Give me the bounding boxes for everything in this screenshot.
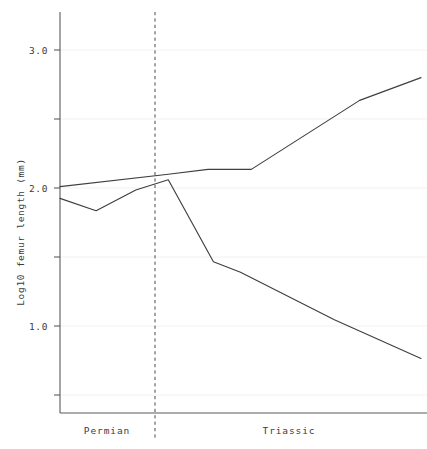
line-chart-canvas: 3.0 2.0 1.0 Log10 femur length (mm) Perm… [0,0,427,449]
ytick-label-3-0: 3.0 [29,45,48,56]
axis-spines [60,12,427,413]
series-lower-trend-line [60,180,421,359]
ytick-label-1-0: 1.0 [29,321,48,332]
y-tickmarks [54,50,60,395]
y-axis-title: Log10 femur length (mm) [15,158,26,306]
chart-figure: 3.0 2.0 1.0 Log10 femur length (mm) Perm… [0,0,427,449]
data-series-group [60,78,421,359]
y-tick-labels: 3.0 2.0 1.0 [29,45,48,332]
x-label-permian: Permian [84,425,130,436]
series-upper-trend-line [60,78,421,187]
gridlines [60,50,427,395]
x-label-triassic: Triassic [263,425,316,436]
ytick-label-2-0: 2.0 [29,183,48,194]
x-period-labels: Permian Triassic [84,425,316,436]
